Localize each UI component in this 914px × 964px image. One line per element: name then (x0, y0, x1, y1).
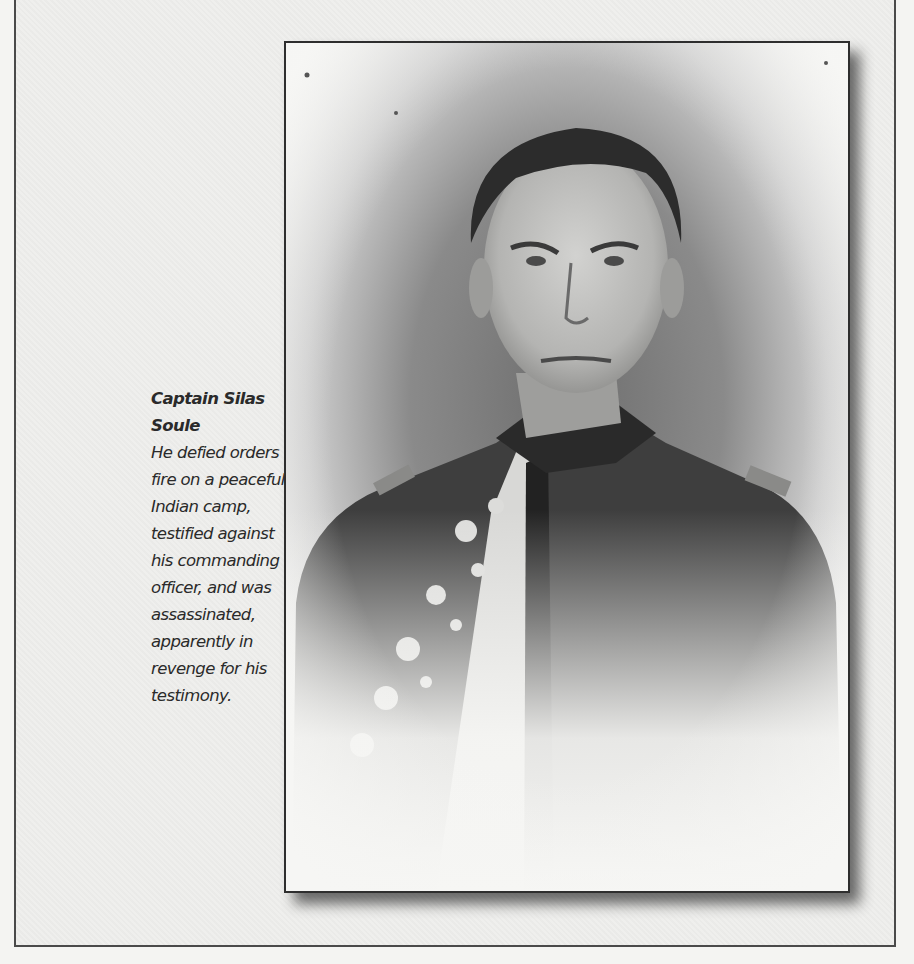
caption-line: assassinated, (151, 601, 291, 628)
caption-line: officer, and was (151, 574, 291, 601)
caption-line: apparently in (151, 628, 291, 655)
caption-line: his commanding (151, 547, 291, 574)
portrait-photo (284, 41, 850, 893)
portrait-image (286, 43, 848, 891)
photo-caption: Captain Silas Soule He defied orders to … (151, 385, 291, 709)
caption-line: fire on a peaceful (151, 466, 291, 493)
caption-line: testified against (151, 520, 291, 547)
caption-line: He defied orders to (151, 439, 291, 466)
caption-line: testimony. (151, 682, 291, 709)
caption-title: Captain Silas Soule (151, 385, 291, 439)
caption-line: revenge for his (151, 655, 291, 682)
caption-line: Indian camp, (151, 493, 291, 520)
